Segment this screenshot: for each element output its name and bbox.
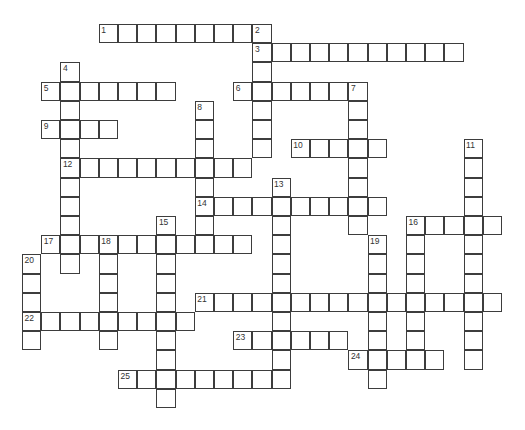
crossword-cell[interactable] bbox=[233, 235, 252, 254]
crossword-cell[interactable] bbox=[137, 24, 156, 43]
crossword-cell[interactable] bbox=[156, 312, 175, 331]
crossword-cell[interactable] bbox=[406, 254, 425, 273]
crossword-cell[interactable] bbox=[368, 274, 387, 293]
crossword-cell[interactable] bbox=[99, 120, 118, 139]
crossword-cell[interactable] bbox=[214, 158, 233, 177]
crossword-cell[interactable] bbox=[22, 274, 41, 293]
crossword-cell[interactable] bbox=[348, 178, 367, 197]
crossword-cell[interactable] bbox=[368, 139, 387, 158]
crossword-cell[interactable] bbox=[156, 158, 175, 177]
crossword-cell[interactable] bbox=[214, 197, 233, 216]
crossword-cell[interactable] bbox=[137, 158, 156, 177]
crossword-cell[interactable] bbox=[272, 350, 291, 369]
crossword-cell[interactable] bbox=[348, 158, 367, 177]
crossword-cell[interactable] bbox=[195, 216, 214, 235]
crossword-cell[interactable] bbox=[60, 82, 79, 101]
crossword-cell[interactable] bbox=[464, 293, 483, 312]
crossword-cell[interactable] bbox=[464, 235, 483, 254]
crossword-cell[interactable] bbox=[176, 312, 195, 331]
crossword-cell[interactable] bbox=[22, 331, 41, 350]
crossword-cell[interactable]: 6 bbox=[233, 82, 252, 101]
crossword-cell[interactable]: 3 bbox=[252, 43, 271, 62]
crossword-cell[interactable] bbox=[272, 254, 291, 273]
crossword-cell[interactable] bbox=[252, 82, 271, 101]
crossword-cell[interactable] bbox=[156, 235, 175, 254]
crossword-cell[interactable] bbox=[368, 197, 387, 216]
crossword-cell[interactable] bbox=[214, 235, 233, 254]
crossword-cell[interactable] bbox=[156, 274, 175, 293]
crossword-cell[interactable]: 17 bbox=[41, 235, 60, 254]
crossword-cell[interactable] bbox=[425, 350, 444, 369]
crossword-cell[interactable]: 19 bbox=[368, 235, 387, 254]
crossword-cell[interactable] bbox=[406, 274, 425, 293]
crossword-cell[interactable] bbox=[272, 235, 291, 254]
crossword-cell[interactable] bbox=[60, 216, 79, 235]
crossword-cell[interactable] bbox=[329, 197, 348, 216]
crossword-cell[interactable] bbox=[195, 120, 214, 139]
crossword-cell[interactable] bbox=[118, 235, 137, 254]
crossword-cell[interactable] bbox=[425, 216, 444, 235]
crossword-cell[interactable]: 15 bbox=[156, 216, 175, 235]
crossword-cell[interactable] bbox=[80, 120, 99, 139]
crossword-cell[interactable]: 22 bbox=[22, 312, 41, 331]
crossword-cell[interactable] bbox=[137, 312, 156, 331]
crossword-cell[interactable] bbox=[195, 158, 214, 177]
crossword-cell[interactable] bbox=[368, 350, 387, 369]
crossword-cell[interactable] bbox=[387, 293, 406, 312]
crossword-cell[interactable] bbox=[310, 197, 329, 216]
crossword-cell[interactable] bbox=[99, 293, 118, 312]
crossword-cell[interactable] bbox=[291, 82, 310, 101]
crossword-cell[interactable] bbox=[252, 101, 271, 120]
crossword-cell[interactable] bbox=[99, 158, 118, 177]
crossword-cell[interactable] bbox=[80, 235, 99, 254]
crossword-cell[interactable]: 4 bbox=[60, 62, 79, 81]
crossword-cell[interactable] bbox=[176, 370, 195, 389]
crossword-cell[interactable] bbox=[233, 293, 252, 312]
crossword-cell[interactable] bbox=[176, 24, 195, 43]
crossword-cell[interactable] bbox=[214, 24, 233, 43]
crossword-cell[interactable] bbox=[464, 331, 483, 350]
crossword-cell[interactable] bbox=[118, 24, 137, 43]
crossword-cell[interactable] bbox=[137, 370, 156, 389]
crossword-cell[interactable] bbox=[252, 197, 271, 216]
crossword-cell[interactable]: 24 bbox=[348, 350, 367, 369]
crossword-cell[interactable]: 9 bbox=[41, 120, 60, 139]
crossword-cell[interactable] bbox=[99, 274, 118, 293]
crossword-cell[interactable] bbox=[444, 43, 463, 62]
crossword-cell[interactable] bbox=[291, 331, 310, 350]
crossword-cell[interactable] bbox=[272, 331, 291, 350]
crossword-cell[interactable]: 16 bbox=[406, 216, 425, 235]
crossword-cell[interactable]: 20 bbox=[22, 254, 41, 273]
crossword-cell[interactable]: 7 bbox=[348, 82, 367, 101]
crossword-cell[interactable]: 2 bbox=[252, 24, 271, 43]
crossword-cell[interactable] bbox=[252, 139, 271, 158]
crossword-cell[interactable]: 14 bbox=[195, 197, 214, 216]
crossword-cell[interactable]: 21 bbox=[195, 293, 214, 312]
crossword-cell[interactable]: 12 bbox=[60, 158, 79, 177]
crossword-cell[interactable]: 25 bbox=[118, 370, 137, 389]
crossword-cell[interactable] bbox=[233, 197, 252, 216]
crossword-cell[interactable] bbox=[195, 139, 214, 158]
crossword-cell[interactable] bbox=[137, 82, 156, 101]
crossword-cell[interactable]: 18 bbox=[99, 235, 118, 254]
crossword-cell[interactable] bbox=[348, 101, 367, 120]
crossword-cell[interactable] bbox=[406, 43, 425, 62]
crossword-cell[interactable] bbox=[233, 24, 252, 43]
crossword-cell[interactable] bbox=[464, 350, 483, 369]
crossword-cell[interactable] bbox=[310, 331, 329, 350]
crossword-cell[interactable]: 13 bbox=[272, 178, 291, 197]
crossword-cell[interactable] bbox=[387, 350, 406, 369]
crossword-cell[interactable] bbox=[137, 235, 156, 254]
crossword-cell[interactable] bbox=[483, 293, 502, 312]
crossword-cell[interactable] bbox=[156, 254, 175, 273]
crossword-cell[interactable] bbox=[329, 139, 348, 158]
crossword-cell[interactable] bbox=[60, 197, 79, 216]
crossword-cell[interactable] bbox=[80, 158, 99, 177]
crossword-cell[interactable] bbox=[156, 293, 175, 312]
crossword-cell[interactable] bbox=[348, 197, 367, 216]
crossword-cell[interactable] bbox=[214, 370, 233, 389]
crossword-cell[interactable] bbox=[118, 312, 137, 331]
crossword-cell[interactable] bbox=[348, 120, 367, 139]
crossword-cell[interactable] bbox=[272, 197, 291, 216]
crossword-cell[interactable] bbox=[233, 158, 252, 177]
